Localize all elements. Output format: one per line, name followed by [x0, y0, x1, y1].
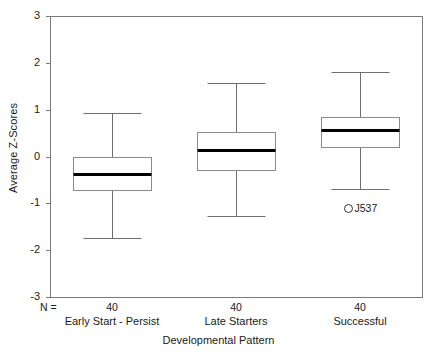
- category-count: 40: [176, 301, 296, 313]
- y-tick-label: -3: [18, 291, 40, 302]
- y-tick-label: 2: [18, 57, 40, 68]
- y-tick-label: 1: [18, 104, 40, 115]
- outlier-label: J537: [355, 202, 378, 214]
- y-tick-label: 3: [18, 10, 40, 21]
- x-axis-title: Developmental Pattern: [0, 334, 437, 346]
- category-count: 40: [300, 301, 420, 313]
- category-label: Successful: [280, 315, 437, 327]
- y-tick-label: -1: [18, 197, 40, 208]
- y-tick-label: -2: [18, 244, 40, 255]
- box-plot-chart: Average Z-Scores Developmental Pattern N…: [0, 0, 437, 356]
- y-tick-label: 0: [18, 151, 40, 162]
- box-iqr: [322, 118, 400, 148]
- category-count: 40: [52, 301, 172, 313]
